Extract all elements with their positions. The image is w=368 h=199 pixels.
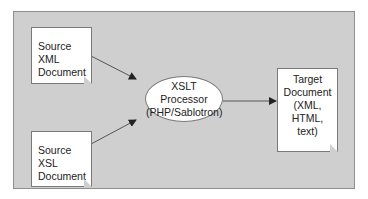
page-fold-icon [330,144,338,152]
label-line: XSL [38,157,86,170]
label-line: Document [38,66,86,79]
source-xsl-document-node: Source XSL Document [31,131,92,187]
label-line: XSLT [146,80,222,93]
label-line: Source [38,144,86,157]
source-xsl-label: Source XSL Document [38,144,86,183]
label-line: Processor [146,93,222,106]
source-xml-label: Source XML Document [38,40,86,79]
xslt-processor-node: XSLT Processor (PHP/Sablotron) [145,76,223,122]
label-line: text) [278,125,337,138]
label-line: (PHP/Sablotron) [146,106,222,119]
page-fold-icon [84,76,92,84]
edge-source-xml-to-processor [91,56,136,79]
edge-source-xsl-to-processor [91,120,136,144]
label-line: Source [38,40,86,53]
label-line: XML [38,53,86,66]
label-line: Target [278,73,337,86]
label-line: (XML, [278,99,337,112]
label-line: Document [38,170,86,183]
label-line: Document [278,86,337,99]
page-fold-icon [84,179,92,187]
label-line: HTML, [278,112,337,125]
target-label: Target Document (XML, HTML, text) [278,73,337,138]
target-document-node: Target Document (XML, HTML, text) [277,68,338,152]
source-xml-document-node: Source XML Document [31,27,92,84]
